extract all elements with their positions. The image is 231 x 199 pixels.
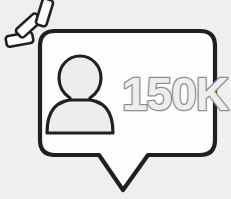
follower-count-illustration: 150K <box>0 0 231 199</box>
sparkle-dash-3 <box>35 0 53 27</box>
person-icon-body <box>47 100 113 133</box>
follower-count-text: 150K <box>122 68 229 120</box>
illustration-canvas: 150K <box>0 0 231 199</box>
